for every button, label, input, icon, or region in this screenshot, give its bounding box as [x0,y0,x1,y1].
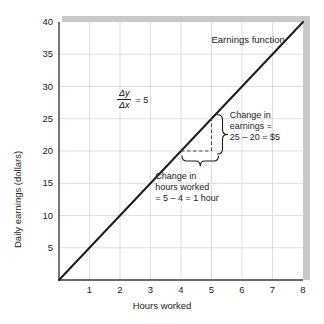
change-in-hours-line2: hours worked [155,182,219,193]
plot-shadow-top [62,16,310,23]
y-tick-label: 25 [31,114,53,124]
y-tick-label: 40 [31,17,53,27]
slope-denominator: Δx [117,100,132,110]
y-axis-title: Daily earnings (dollars) [12,151,23,248]
series-label-earnings-function: Earnings function [212,34,285,45]
change-in-earnings-line3: 25 – 20 = $5 [230,132,280,143]
y-tick-label: 10 [31,211,53,221]
change-in-hours-annotation: Change in hours worked = 5 – 4 = 1 hour [155,171,219,205]
chart-figure: 510152025303540 12345678 Hours worked Da… [0,0,324,324]
x-tick-label: 1 [83,285,97,295]
x-tick-label: 6 [235,285,249,295]
change-in-earnings-line1: Change in [230,110,280,121]
x-tick-label: 4 [174,285,188,295]
y-tick-label: 35 [31,49,53,59]
x-tick-label: 2 [113,285,127,295]
change-in-hours-line3: = 5 – 4 = 1 hour [155,193,219,204]
change-in-earnings-line2: earnings = [230,121,280,132]
x-tick-label: 3 [144,285,158,295]
y-tick-label: 20 [31,146,53,156]
x-tick-label: 7 [266,285,280,295]
slope-fraction-annotation: Δy Δx = 5 [117,89,148,110]
y-tick-label: 30 [31,82,53,92]
y-tick-label: 5 [31,243,53,253]
x-tick-label: 5 [205,285,219,295]
x-axis-title: Hours worked [0,300,324,311]
y-tick-label: 15 [31,178,53,188]
plot-shadow-right [303,16,310,280]
change-in-earnings-annotation: Change in earnings = 25 – 20 = $5 [230,110,280,144]
slope-numerator: Δy [117,89,132,100]
slope-equals-value: = 5 [135,95,148,105]
change-in-hours-line1: Change in [155,171,219,182]
x-tick-label: 8 [296,285,310,295]
